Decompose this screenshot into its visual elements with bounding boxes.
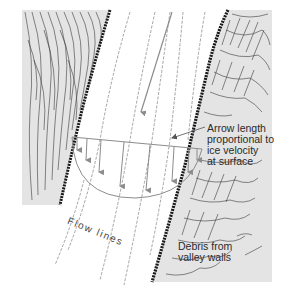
main-flow-arrow [141,12,172,112]
arrow-length-note: Arrow length proportional to ice velocit… [207,123,274,167]
debris-note: Debris from valley walls [178,241,232,263]
left-valley-wall [22,10,110,205]
debris-line-2: valley walls [178,252,232,263]
arrow-note-line-4: at surface [207,156,274,167]
